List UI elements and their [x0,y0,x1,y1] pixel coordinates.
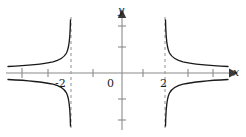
curve-branch-upper-left [8,20,71,67]
plot-canvas [0,0,246,137]
x-axis-label: x [233,66,239,79]
curve-branch-upper-right [166,20,229,67]
origin-label: 0 [107,77,114,90]
rational-function-figure: y x 0 -2 2 [0,0,246,137]
x-tick-label-negative-2: -2 [55,77,66,90]
y-axis-label: y [118,4,124,17]
curve-branch-lower-right [166,80,229,127]
x-tick-label-positive-2: 2 [160,77,167,90]
